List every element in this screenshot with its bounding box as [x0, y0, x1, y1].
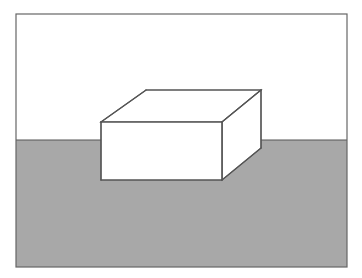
figure-svg: Cuboid resting on a ground plane with ho…: [0, 0, 362, 278]
cuboid-front-face: [101, 122, 222, 180]
figure-container: Cuboid resting on a ground plane with ho…: [0, 0, 362, 278]
